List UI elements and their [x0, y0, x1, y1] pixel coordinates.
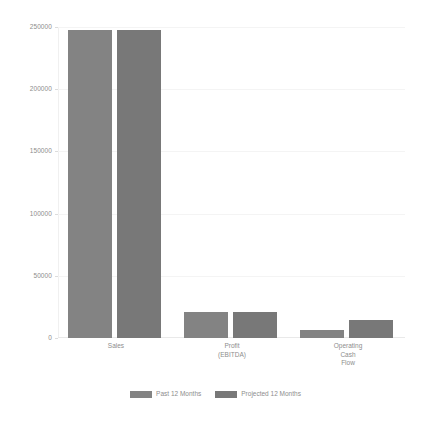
y-axis: 250000 200000 150000 100000 50000 0 — [0, 0, 52, 421]
legend-entry-projected-12-months[interactable]: Projected 12 Months — [215, 391, 301, 398]
bar-sales-past-12-months[interactable] — [68, 30, 112, 338]
legend-swatch-icon-projected-12-months — [215, 391, 237, 398]
bar-group-sales — [58, 27, 174, 338]
legend-label-projected-12-months: Projected 12 Months — [241, 391, 301, 398]
y-tick-label-250000: 250000 — [30, 24, 52, 31]
bar-operating-cash-flow-past-12-months[interactable] — [300, 330, 344, 338]
bar-sales-projected-12-months[interactable] — [117, 30, 161, 338]
y-tick-label-0: 0 — [48, 335, 52, 342]
x-label-profit-ebitda: Profit (EBITDA) — [174, 342, 290, 359]
y-tick-label-50000: 50000 — [33, 273, 52, 280]
bar-chart: 250000 200000 150000 100000 50000 0 — [0, 0, 431, 421]
bar-group-profit-ebitda — [174, 27, 290, 338]
bar-operating-cash-flow-projected-12-months[interactable] — [349, 320, 393, 338]
x-axis: Sales Profit (EBITDA) Operating Cash Flo… — [58, 342, 405, 384]
y-tick-label-100000: 100000 — [30, 211, 52, 218]
bars-layer — [58, 27, 405, 338]
chart-legend: Past 12 Months Projected 12 Months — [0, 391, 431, 398]
y-tick-dash-0 — [55, 338, 58, 339]
bar-profit-projected-12-months[interactable] — [233, 312, 277, 338]
legend-entry-past-12-months[interactable]: Past 12 Months — [130, 391, 201, 398]
legend-label-past-12-months: Past 12 Months — [156, 391, 201, 398]
legend-swatch-icon-past-12-months — [130, 391, 152, 398]
bar-group-operating-cash-flow — [290, 27, 406, 338]
x-label-operating-cash-flow: Operating Cash Flow — [290, 342, 406, 368]
bar-profit-past-12-months[interactable] — [184, 312, 228, 338]
y-tick-label-150000: 150000 — [30, 148, 52, 155]
x-label-sales: Sales — [58, 342, 174, 351]
y-tick-label-200000: 200000 — [30, 86, 52, 93]
